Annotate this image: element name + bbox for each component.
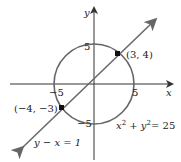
y-axis-label: y bbox=[83, 7, 90, 18]
point-3-4 bbox=[115, 51, 120, 56]
tick-5-y: 5 bbox=[84, 41, 90, 52]
circle-equation: x2 + y2= 25 bbox=[116, 119, 175, 131]
diagram-canvas: y x 5 −5 5 −5 (3, 4) (−4, −3) x2 + y2= 2… bbox=[0, 0, 181, 162]
tick-5-x: 5 bbox=[132, 87, 138, 98]
x-axis-label: x bbox=[166, 87, 172, 98]
line-equation: y − x = 1 bbox=[33, 137, 81, 148]
point-a-label: (3, 4) bbox=[126, 49, 153, 60]
tick-neg5-y: −5 bbox=[77, 118, 92, 129]
point-b-label: (−4, −3) bbox=[14, 103, 58, 114]
tick-neg5-x: −5 bbox=[49, 87, 64, 98]
point-neg4-neg3 bbox=[59, 105, 64, 110]
